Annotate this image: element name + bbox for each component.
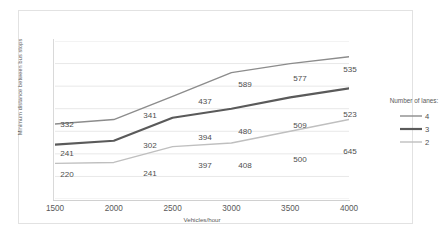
x-axis-title: Vehicles/hour	[55, 216, 349, 223]
legend-item-2-lanes[interactable]: 2	[385, 136, 443, 149]
data-label: 577	[293, 74, 307, 83]
data-label: 241	[143, 169, 157, 178]
data-label: 500	[293, 155, 307, 164]
legend-swatch	[400, 139, 422, 145]
data-label: 589	[238, 80, 252, 89]
data-label: 397	[198, 161, 212, 170]
chart-plot-frame: Minimum distance between bus stops 22024…	[18, 10, 413, 224]
x-tick-label: 3500	[268, 204, 312, 213]
legend-title: Number of lanes:	[385, 97, 443, 106]
legend: Number of lanes: 432	[385, 97, 443, 149]
data-label: 220	[60, 170, 74, 179]
data-label: 437	[198, 97, 212, 106]
data-label: 332	[60, 120, 74, 129]
legend-label: 2	[425, 138, 433, 147]
data-label: 408	[238, 161, 252, 170]
x-tick-label: 1500	[33, 204, 77, 213]
data-label: 341	[143, 111, 157, 120]
data-label: 480	[238, 127, 252, 136]
x-axis-line	[53, 200, 350, 201]
x-tick-label: 2500	[151, 204, 195, 213]
legend-item-4-lanes[interactable]: 4	[385, 110, 443, 123]
data-label: 302	[143, 141, 157, 150]
x-tick-label: 3000	[209, 204, 253, 213]
legend-label: 4	[425, 112, 433, 121]
data-label: 509	[293, 121, 307, 130]
x-tick-label: 4000	[327, 204, 371, 213]
data-label: 241	[60, 149, 74, 158]
data-label: 535	[343, 65, 357, 74]
legend-item-3-lanes[interactable]: 3	[385, 123, 443, 136]
plot-area: 2202413974085006452413023944805095233323…	[55, 41, 349, 199]
legend-swatch	[400, 113, 422, 119]
data-label: 523	[343, 110, 357, 119]
y-axis-line	[53, 39, 54, 201]
y-axis-title: Minimum distance between bus stops	[17, 7, 23, 167]
data-label: 394	[198, 133, 212, 142]
data-label: 645	[343, 147, 357, 156]
x-tick-label: 2000	[92, 204, 136, 213]
legend-swatch	[400, 126, 422, 132]
legend-label: 3	[425, 125, 433, 134]
